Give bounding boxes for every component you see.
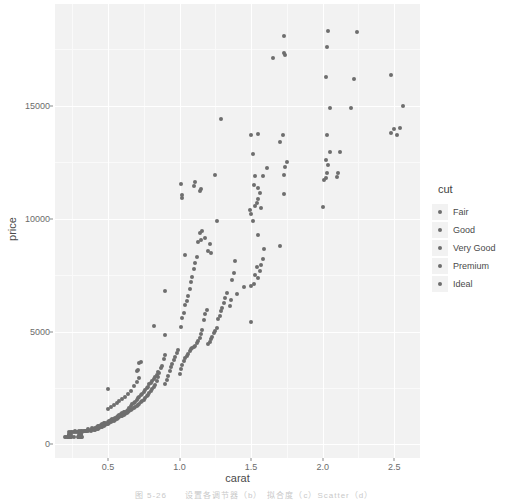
- legend-item-label: Very Good: [453, 243, 496, 253]
- gridline-major-horizontal: [55, 219, 420, 220]
- y-tick-mark: [50, 105, 53, 106]
- y-tick-mark: [50, 218, 53, 219]
- x-tick-label: 0.5: [88, 462, 128, 472]
- scatter-point: [242, 285, 246, 289]
- y-tick-label: 10000: [8, 214, 50, 224]
- scatter-point: [253, 273, 257, 277]
- scatter-point: [248, 208, 252, 212]
- legend-item-label: Ideal: [453, 279, 473, 289]
- scatter-point: [220, 306, 224, 310]
- scatter-point: [261, 174, 265, 178]
- scatter-point: [168, 369, 172, 373]
- scatter-point: [392, 127, 396, 131]
- x-tick-label: 2.5: [374, 462, 414, 472]
- x-tick-label: 1.0: [160, 462, 200, 472]
- scatter-point: [401, 104, 405, 108]
- x-tick-mark: [394, 458, 395, 461]
- scatter-point: [205, 308, 209, 312]
- legend-item-premium[interactable]: Premium: [432, 257, 506, 275]
- gridline-major-vertical: [394, 4, 395, 458]
- scatter-point: [219, 117, 223, 121]
- scatter-point: [355, 30, 359, 34]
- scatter-point: [203, 236, 207, 240]
- scatter-point: [170, 362, 174, 366]
- scatter-point: [395, 133, 399, 137]
- scatter-point: [251, 219, 255, 223]
- scatter-point: [352, 77, 356, 81]
- scatter-point: [338, 150, 342, 154]
- legend-item-label: Premium: [453, 261, 489, 271]
- plot-panel: [55, 4, 420, 458]
- gridline-minor-vertical: [287, 4, 288, 458]
- scatter-point: [208, 242, 212, 246]
- y-tick-mark: [50, 444, 53, 445]
- legend-item-label: Good: [453, 225, 475, 235]
- scatter-point: [173, 355, 177, 359]
- scatter-point: [233, 259, 237, 263]
- scatter-point: [324, 158, 328, 162]
- scatter-point: [213, 173, 217, 177]
- scatter-point: [256, 186, 260, 190]
- scatter-point: [258, 269, 262, 273]
- x-tick-mark: [322, 458, 323, 461]
- x-tick-mark: [107, 458, 108, 461]
- scatter-point: [271, 56, 275, 60]
- scatter-point: [192, 267, 196, 271]
- scatter-point: [249, 212, 253, 216]
- scatter-point: [321, 205, 325, 209]
- scatter-point: [259, 206, 263, 210]
- scatter-point: [265, 166, 269, 170]
- scatter-point: [202, 318, 206, 322]
- x-tick-label: 2.0: [303, 462, 343, 472]
- scatter-point: [324, 75, 328, 79]
- scatter-point: [282, 192, 286, 196]
- gridline-minor-horizontal: [55, 49, 420, 50]
- legend-key-swatch: [432, 222, 448, 238]
- scatter-point: [229, 298, 233, 302]
- x-tick-mark: [179, 458, 180, 461]
- legend-item-ideal[interactable]: Ideal: [432, 275, 506, 293]
- scatter-point: [398, 126, 402, 130]
- gridline-minor-horizontal: [55, 162, 420, 163]
- scatter-point: [228, 304, 232, 308]
- gridline-major-vertical: [251, 4, 252, 458]
- legend-item-very-good[interactable]: Very Good: [432, 239, 506, 257]
- scatter-point: [163, 289, 167, 293]
- scatter-point: [326, 29, 330, 33]
- y-tick-label: 5000: [8, 327, 50, 337]
- scatter-point: [328, 106, 332, 110]
- scatter-point: [252, 183, 256, 187]
- gridline-major-horizontal: [55, 106, 420, 107]
- scatter-point: [79, 429, 83, 433]
- scatter-point: [165, 378, 169, 382]
- scatter-point: [200, 328, 204, 332]
- scatter-point: [215, 219, 219, 223]
- x-tick-label: 1.5: [231, 462, 271, 472]
- figure-caption: 图 5-26 设置各调节器（b） 拟合度（c）Scatter（d）: [0, 489, 508, 501]
- legend-point-icon: [438, 228, 442, 232]
- gridline-major-horizontal: [55, 444, 420, 445]
- scatter-point: [178, 372, 182, 376]
- gridline-major-vertical: [180, 4, 181, 458]
- scatter-point: [232, 271, 236, 275]
- scatter-point: [185, 299, 189, 303]
- scatter-point: [256, 233, 260, 237]
- scatter-point: [180, 363, 184, 367]
- scatter-point: [282, 34, 286, 38]
- scatter-point: [179, 182, 183, 186]
- scatter-point: [183, 253, 187, 257]
- scatter-point: [193, 180, 197, 184]
- scatter-point: [223, 296, 227, 300]
- x-tick-mark: [251, 458, 252, 461]
- scatter-point: [258, 191, 262, 195]
- scatter-point: [190, 275, 194, 279]
- scatter-point: [160, 364, 164, 368]
- scatter-point: [182, 311, 186, 315]
- scatter-point: [206, 249, 210, 253]
- scatter-point: [156, 370, 160, 374]
- scatter-point: [106, 387, 110, 391]
- scatter-point: [283, 165, 287, 169]
- scatter-point: [324, 176, 328, 180]
- legend-item-fair[interactable]: Fair: [432, 203, 506, 221]
- legend-item-good[interactable]: Good: [432, 221, 506, 239]
